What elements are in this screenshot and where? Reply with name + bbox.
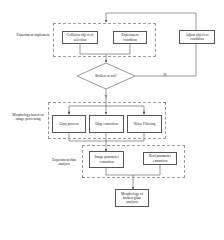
node-decision-broken: Broken or not? <box>86 74 126 78</box>
node-experiment-condition: Experiment condition <box>113 31 147 44</box>
node-image-parameter-extraction: Image parameter extraction <box>89 151 124 168</box>
node-collision-object: Collision object of selection <box>62 31 98 44</box>
node-morphology-result: Morphology of broken glass analysis <box>115 189 149 207</box>
node-noise-filtering: Noise Filtering <box>127 115 162 133</box>
node-gray-process: Gray process <box>52 115 86 133</box>
group-label-experiment-implement: Experiment implement <box>16 33 50 37</box>
node-adjust-object: Adjust object or condition <box>179 30 215 44</box>
node-real-parameter-extraction: Real parameter extraction <box>143 152 177 165</box>
group-label-morphology: Morphology based on image processing <box>10 113 46 121</box>
node-edge-extraction: Edge extraction <box>89 115 124 133</box>
edge-label-yes: Y <box>103 95 109 99</box>
edge-label-no: N <box>162 73 168 77</box>
group-label-data-analysis: Experiment data analysis <box>48 158 80 166</box>
